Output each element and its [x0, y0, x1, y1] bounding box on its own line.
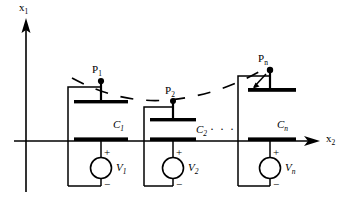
- v2-minus-sign: −: [176, 179, 182, 190]
- v1-plus-sign: +: [104, 147, 110, 158]
- plate-point-p1-label: P1: [92, 64, 102, 78]
- capacitor-c1-label: C1: [113, 119, 124, 133]
- c2-top-plate: [150, 118, 196, 121]
- voltage-source-vn-symbol: [260, 158, 281, 179]
- voltage-source-v1-symbol: [91, 158, 112, 179]
- continuation-ellipsis: · · ·: [210, 123, 236, 135]
- c1-bottom-plate: [74, 137, 128, 141]
- c2-support-bracket: [144, 107, 173, 136]
- diagram-vector-layer: [0, 0, 350, 206]
- voltage-source-v2-symbol: [163, 158, 184, 179]
- plate-point-pn-dot: [267, 67, 273, 73]
- cn-bottom-plate: [248, 137, 296, 141]
- voltage-source-v1-label: V1: [116, 162, 126, 176]
- plate-point-pn-label: Pn: [258, 53, 268, 67]
- v2-plus-sign: +: [176, 147, 182, 158]
- v1-minus-sign: −: [104, 179, 110, 190]
- c2-bottom-plate: [150, 137, 196, 141]
- figure-canvas: x1 x2 P1 P2 Pn C1 C2 Cn · · · V1 + − V2 …: [0, 0, 350, 206]
- plate-point-p1-dot: [98, 78, 104, 84]
- x2-axis-label: x2: [326, 133, 335, 147]
- capacitor-cn-label: Cn: [277, 119, 288, 133]
- cn-support-bracket: [238, 76, 270, 136]
- vn-plus-sign: +: [273, 147, 279, 158]
- c1-support-bracket: [68, 87, 101, 130]
- axes-group: [14, 18, 320, 192]
- pn-pointer-arrowhead: [253, 83, 260, 89]
- plate-point-p2-label: P2: [165, 85, 175, 99]
- vn-minus-sign: −: [273, 179, 279, 190]
- capacitor-c2-label: C2: [196, 124, 207, 138]
- cn-top-plate: [248, 88, 296, 92]
- voltage-source-vn-label: Vn: [285, 162, 295, 176]
- c1-top-plate: [74, 100, 128, 103]
- voltage-source-v2-label: V2: [188, 162, 198, 176]
- x1-axis-label: x1: [19, 2, 28, 16]
